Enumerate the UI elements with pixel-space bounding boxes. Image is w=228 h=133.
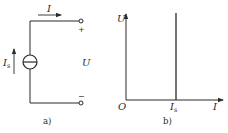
voltage-label: U — [82, 57, 91, 68]
caption-a: a) — [43, 116, 51, 126]
current-label: I — [46, 3, 52, 14]
circuit-diagram: I Is + − U a) — [2, 3, 91, 126]
positive-terminal-icon — [79, 19, 83, 23]
plus-sign: + — [78, 25, 85, 34]
x-axis-label: I — [212, 101, 218, 112]
minus-sign: − — [78, 92, 85, 101]
source-current-label: Is — [2, 57, 10, 70]
y-axis-label: U — [117, 13, 126, 24]
current-source-icon — [23, 55, 37, 69]
negative-terminal-icon — [79, 101, 83, 105]
caption-b: b) — [163, 116, 172, 126]
figure-canvas: I Is + − U a) U O Is I b) — [0, 0, 228, 133]
origin-label: O — [118, 101, 126, 112]
ui-characteristic-plot: U O Is I b) — [117, 13, 223, 126]
is-tick-label: Is — [169, 101, 177, 114]
